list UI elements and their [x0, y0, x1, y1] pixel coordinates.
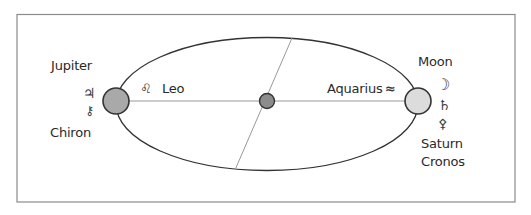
- moon-symbol-icon: ☽: [436, 77, 450, 93]
- saturn-symbol-icon: ♄: [438, 98, 451, 112]
- jupiter-symbol-icon: ♃: [83, 86, 96, 100]
- diagram-canvas: Jupiter ♃ ⚷ Chiron ♌ Leo Aquarius ≈ Moon…: [0, 0, 531, 215]
- leo-symbol-icon: ♌: [140, 82, 152, 95]
- center-point-circle: [260, 94, 275, 109]
- leo-label: Leo: [162, 81, 184, 96]
- aquarius-label: Aquarius: [327, 81, 383, 96]
- right-point-circle: [405, 88, 431, 114]
- chiron-symbol-icon: ⚷: [85, 104, 95, 117]
- left-point-circle: [103, 88, 129, 114]
- cronos-symbol-icon: ⚴: [438, 117, 448, 130]
- saturn-label: Saturn: [421, 136, 463, 151]
- moon-label: Moon: [418, 54, 453, 69]
- aquarius-symbol-icon: ≈: [385, 82, 396, 95]
- cronos-label: Cronos: [421, 154, 465, 169]
- diagram-svg: [0, 0, 531, 215]
- jupiter-label: Jupiter: [51, 58, 92, 73]
- chiron-label: Chiron: [50, 125, 91, 140]
